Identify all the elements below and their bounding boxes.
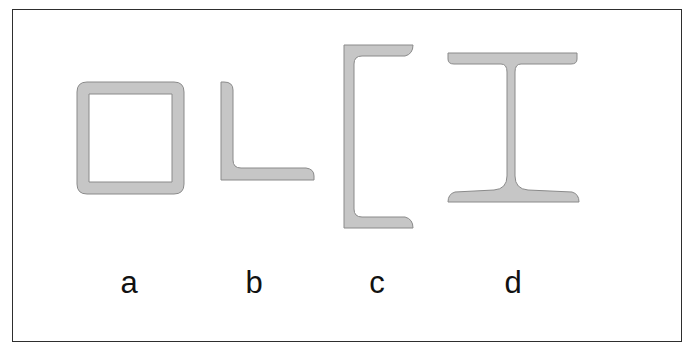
label-b: b [234, 265, 274, 301]
label-a: a [109, 265, 149, 301]
channel-profile [344, 45, 413, 228]
label-d: d [493, 265, 533, 301]
profiles-diagram [0, 0, 690, 353]
angle-profile [221, 82, 314, 180]
square-tube-profile [77, 82, 184, 194]
i-beam-profile [448, 53, 579, 202]
label-c: c [357, 265, 397, 301]
